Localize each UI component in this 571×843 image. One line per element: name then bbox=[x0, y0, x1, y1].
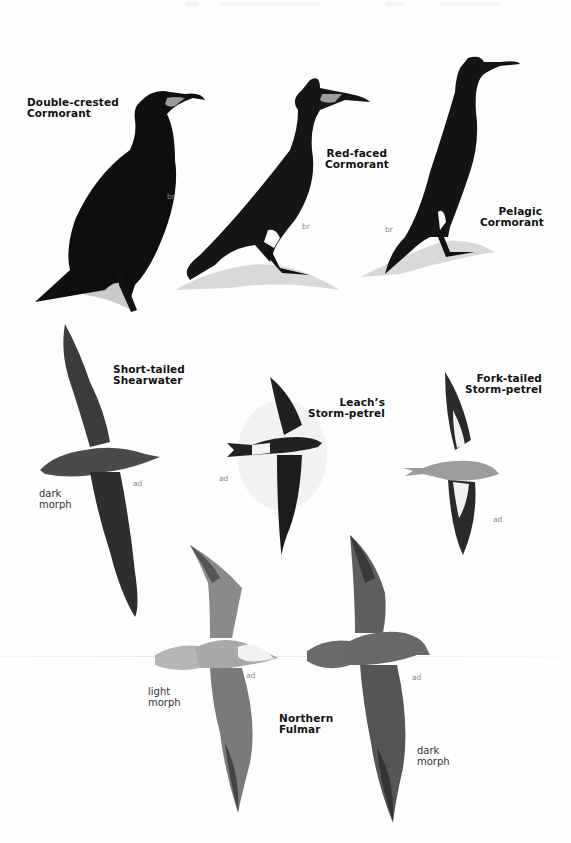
age-label: ad bbox=[219, 474, 228, 483]
species-label-northern-fulmar: Northern Fulmar bbox=[279, 713, 333, 735]
species-label-short-tailed-shearwater: Short-tailed Shearwater bbox=[113, 364, 185, 386]
pelagic-cormorant-illustration bbox=[360, 52, 530, 282]
red-faced-cormorant-illustration bbox=[170, 70, 380, 300]
species-label-fork-tailed-storm-petrel: Fork-tailed Storm-petrel bbox=[462, 373, 542, 395]
northern-fulmar-light-morph-illustration bbox=[150, 543, 282, 818]
morph-label-line: morph bbox=[39, 499, 72, 510]
age-label: ad bbox=[412, 673, 421, 682]
species-name-line: Storm-petrel bbox=[305, 408, 385, 419]
age-label: br bbox=[302, 222, 310, 231]
bleed-through-mark bbox=[440, 2, 500, 6]
morph-label-line: morph bbox=[148, 697, 181, 708]
species-name-line: Storm-petrel bbox=[462, 384, 542, 395]
morph-label: dark morph bbox=[39, 488, 72, 510]
species-label-leachs-storm-petrel: Leach’s Storm-petrel bbox=[305, 397, 385, 419]
morph-label-line: light bbox=[148, 686, 181, 697]
species-label-double-crested-cormorant: Double-crested Cormorant bbox=[27, 97, 119, 119]
species-label-pelagic-cormorant: Pelagic Cormorant bbox=[480, 206, 542, 228]
field-guide-page: Double-crested Cormorant br Red-faced Co… bbox=[0, 0, 571, 843]
age-label: ad bbox=[246, 671, 255, 680]
species-name-line: Fulmar bbox=[279, 724, 333, 735]
morph-label: dark morph bbox=[417, 745, 450, 767]
species-name-line: Shearwater bbox=[113, 375, 185, 386]
species-name-line: Cormorant bbox=[480, 217, 542, 228]
morph-label-line: morph bbox=[417, 756, 450, 767]
morph-label-line: dark bbox=[39, 488, 72, 499]
age-label: ad bbox=[493, 515, 502, 524]
bleed-through-mark bbox=[185, 2, 199, 6]
bleed-through-mark bbox=[385, 2, 405, 6]
bleed-through-mark bbox=[220, 2, 320, 6]
morph-label-line: dark bbox=[417, 745, 450, 756]
morph-label: light morph bbox=[148, 686, 181, 708]
age-label: br bbox=[385, 225, 393, 234]
species-name-line: Cormorant bbox=[27, 108, 119, 119]
age-label: ad bbox=[133, 479, 142, 488]
page-fold-line bbox=[0, 656, 571, 657]
